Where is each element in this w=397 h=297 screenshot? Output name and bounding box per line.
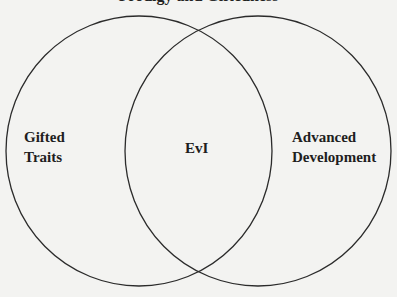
intersection-label: EvI <box>185 138 208 158</box>
left-set-label: Gifted Traits <box>24 127 65 167</box>
left-set-label-line2: Traits <box>24 147 65 167</box>
right-set-label: Advanced Development <box>292 127 376 167</box>
right-set-label-line2: Development <box>292 147 376 167</box>
right-set-label-line1: Advanced <box>292 127 376 147</box>
left-set-label-line1: Gifted <box>24 127 65 147</box>
